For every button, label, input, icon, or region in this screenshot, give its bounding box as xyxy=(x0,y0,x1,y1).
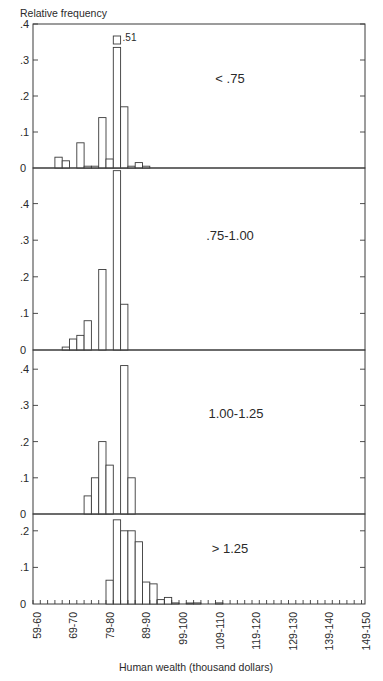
histogram-bar xyxy=(70,339,77,350)
panel-frame xyxy=(33,350,365,514)
histogram-bar xyxy=(157,600,164,604)
y-tick-label: .3 xyxy=(20,234,29,246)
histogram-bar xyxy=(121,366,128,514)
y-tick-label: .3 xyxy=(20,54,29,66)
histogram-bar xyxy=(99,269,106,350)
y-tick-label: 0 xyxy=(20,508,26,520)
histogram-bar xyxy=(106,580,113,604)
histogram-bar xyxy=(99,118,106,168)
x-tick-label: 109-110 xyxy=(214,612,226,650)
x-tick-label: 119-120 xyxy=(250,612,262,650)
x-axis-title: Human wealth (thousand dollars) xyxy=(119,661,273,673)
histogram-bar xyxy=(164,597,171,604)
y-tick-label: .4 xyxy=(20,18,29,30)
histogram-bar xyxy=(113,47,120,168)
histogram-bar xyxy=(113,520,120,604)
panel-frame xyxy=(33,514,365,604)
y-tick-label: .1 xyxy=(20,307,29,319)
x-tick-label: 89-90 xyxy=(140,612,152,639)
histogram-bar xyxy=(121,304,128,350)
panel-2: 0.1.2.3.4.75-1.00 xyxy=(20,168,365,356)
histogram-bar xyxy=(84,496,91,514)
histogram-bar xyxy=(113,171,120,350)
panel-3: 0.1.2.3.41.00-1.25 xyxy=(20,350,365,520)
y-tick-label: .1 xyxy=(20,472,29,484)
histogram-bar xyxy=(186,603,193,604)
histogram-bar xyxy=(99,442,106,514)
y-tick-label: 0 xyxy=(20,344,26,356)
panel-label: .75-1.00 xyxy=(206,228,254,243)
y-tick-label: 0 xyxy=(20,598,26,610)
histogram-bar-break xyxy=(113,36,120,44)
y-tick-label: .2 xyxy=(20,436,29,448)
histogram-bar xyxy=(55,157,62,168)
panel-1: 0.1.2.3.4.51< .75 xyxy=(20,18,365,174)
y-tick-label: 0 xyxy=(20,162,26,174)
histogram-bar xyxy=(121,107,128,168)
y-tick-label: .3 xyxy=(20,399,29,411)
x-tick-label: 59-60 xyxy=(31,612,43,639)
histogram-bar xyxy=(194,603,201,604)
y-tick-label: .2 xyxy=(20,525,29,537)
histogram-bar xyxy=(77,143,84,168)
histogram-bar xyxy=(135,163,142,168)
panels-group: 0.1.2.3.4.51< .750.1.2.3.4.75-1.000.1.2.… xyxy=(20,18,365,610)
histogram-bar xyxy=(150,584,157,604)
histogram-bar xyxy=(62,161,69,168)
x-tick-label: 139-140 xyxy=(323,612,335,651)
bar-annotation: .51 xyxy=(123,32,137,43)
histogram-bar xyxy=(172,603,179,604)
histogram-bar xyxy=(121,531,128,604)
histogram-bar xyxy=(91,478,98,514)
histogram-bar xyxy=(128,478,135,514)
histogram-bar xyxy=(106,159,113,168)
panel-frame xyxy=(33,168,365,350)
x-tick-label: 99-100 xyxy=(177,612,189,645)
x-axis: 59-6069-7079-8089-9099-100109-110119-120… xyxy=(31,600,372,651)
panel-4: 0.1.2> 1.25 xyxy=(20,514,365,610)
histogram-bar xyxy=(84,321,91,350)
x-tick-label: 129-130 xyxy=(287,612,299,651)
x-tick-label: 69-70 xyxy=(67,612,79,639)
histogram-bar xyxy=(143,582,150,604)
histogram-bar xyxy=(216,603,223,604)
y-tick-label: .4 xyxy=(20,363,29,375)
y-tick-label: .4 xyxy=(20,198,29,210)
histogram-bar xyxy=(77,335,84,350)
y-tick-label: .1 xyxy=(20,126,29,138)
x-tick-label: 79-80 xyxy=(104,612,116,639)
y-tick-label: .2 xyxy=(20,271,29,283)
histogram-bar xyxy=(106,465,113,514)
y-tick-label: .1 xyxy=(20,561,29,573)
panel-label: > 1.25 xyxy=(212,541,249,556)
histogram-chart: Relative frequency 0.1.2.3.4.51< .750.1.… xyxy=(0,0,383,681)
histogram-bar xyxy=(135,542,142,604)
histogram-bar xyxy=(128,531,135,604)
y-tick-label: .2 xyxy=(20,90,29,102)
x-tick-label: 149-150 xyxy=(360,612,372,651)
y-axis-title: Relative frequency xyxy=(20,7,108,19)
panel-label: < .75 xyxy=(215,71,244,86)
panel-label: 1.00-1.25 xyxy=(209,406,264,421)
